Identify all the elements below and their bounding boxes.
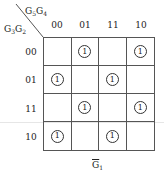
circled-one-marker: 1 — [51, 130, 64, 143]
kmap-cell — [127, 66, 155, 94]
kmap-cell: 1 — [99, 66, 127, 94]
kmap-cell — [99, 94, 127, 122]
karnaugh-map-grid: 11111111 — [43, 37, 155, 151]
circled-one-marker: 1 — [134, 101, 147, 114]
kmap-cell — [99, 38, 127, 66]
row-variable-label: G3G2 — [4, 25, 26, 35]
kmap-cell: 1 — [72, 94, 100, 122]
column-header: 11 — [99, 20, 127, 30]
kmap-cell: 1 — [99, 122, 127, 150]
circled-one-marker: 1 — [106, 73, 119, 86]
row-header: 00 — [22, 47, 40, 57]
circled-one-marker: 1 — [78, 45, 91, 58]
kmap-cell: 1 — [44, 66, 72, 94]
circled-one-marker: 1 — [51, 73, 64, 86]
kmap-cell — [127, 122, 155, 150]
kmap-cell: 1 — [127, 94, 155, 122]
kmap-cell — [44, 38, 72, 66]
column-header: 00 — [43, 20, 71, 30]
kmap-cell: 1 — [127, 38, 155, 66]
column-header: 10 — [127, 20, 155, 30]
row-header: 10 — [22, 132, 40, 142]
kmap-cell: 1 — [72, 38, 100, 66]
row-header: 11 — [22, 104, 40, 114]
row-header: 01 — [22, 75, 40, 85]
kmap-cell — [72, 66, 100, 94]
kmap-cell — [72, 122, 100, 150]
circled-one-marker: 1 — [106, 130, 119, 143]
circled-one-marker: 1 — [78, 101, 91, 114]
column-header: 01 — [71, 20, 99, 30]
kmap-cell: 1 — [44, 122, 72, 150]
kmap-cell — [44, 94, 72, 122]
column-variable-label: G5G4 — [25, 7, 47, 17]
map-caption: G1 — [92, 160, 103, 171]
circled-one-marker: 1 — [134, 45, 147, 58]
